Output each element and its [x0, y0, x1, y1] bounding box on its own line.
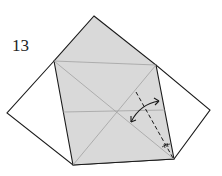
front-flap: [54, 16, 174, 165]
origami-diagram: [0, 0, 222, 176]
